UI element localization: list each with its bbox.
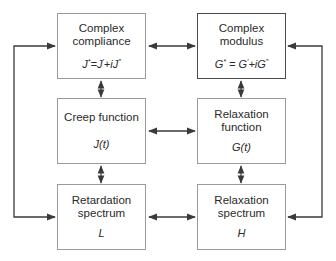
relaxation-spectrum-symbol: H — [238, 227, 246, 240]
arrow-outer-left-loop — [14, 46, 55, 217]
retardation-spectrum-title: Retardation spectrum — [72, 194, 131, 220]
relaxation-function-title: Relaxation function — [214, 108, 268, 134]
creep-function-title: Creep function — [64, 111, 139, 124]
creep-function-box: Creep function J(t) — [57, 98, 146, 164]
relaxation-spectrum-title: Relaxation spectrum — [214, 194, 268, 220]
complex-modulus-title: Complex modulus — [219, 22, 264, 48]
arrow-outer-right-loop — [288, 46, 322, 217]
complex-compliance-formula: J*=J′+iJ″ — [82, 55, 120, 71]
retardation-spectrum-symbol: L — [98, 227, 104, 240]
creep-function-symbol: J(t) — [94, 138, 110, 151]
complex-compliance-box: Complex compliance J*=J′+iJ″ — [57, 13, 146, 79]
relaxation-spectrum-box: Relaxation spectrum H — [197, 184, 286, 250]
relaxation-function-box: Relaxation function G(t) — [197, 98, 286, 164]
complex-compliance-title: Complex compliance — [72, 22, 130, 48]
relaxation-function-symbol: G(t) — [232, 141, 251, 154]
complex-modulus-formula: G* = G′+iG″ — [215, 55, 269, 71]
complex-modulus-box: Complex modulus G* = G′+iG″ — [197, 13, 286, 79]
retardation-spectrum-box: Retardation spectrum L — [57, 184, 146, 250]
